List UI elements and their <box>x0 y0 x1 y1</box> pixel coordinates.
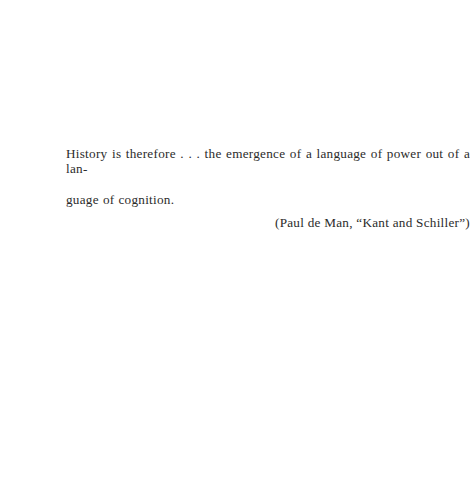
epigraph-block: History is therefore . . . the emergence… <box>66 146 470 230</box>
epigraph-quote-line-1: History is therefore . . . the emergence… <box>66 146 470 192</box>
epigraph-quote-line-2: guage of cognition. <box>66 192 470 207</box>
epigraph-quote-text: History is therefore . . . the emergence… <box>66 146 470 208</box>
epigraph-attribution: (Paul de Man, “Kant and Schiller”) <box>66 208 470 230</box>
